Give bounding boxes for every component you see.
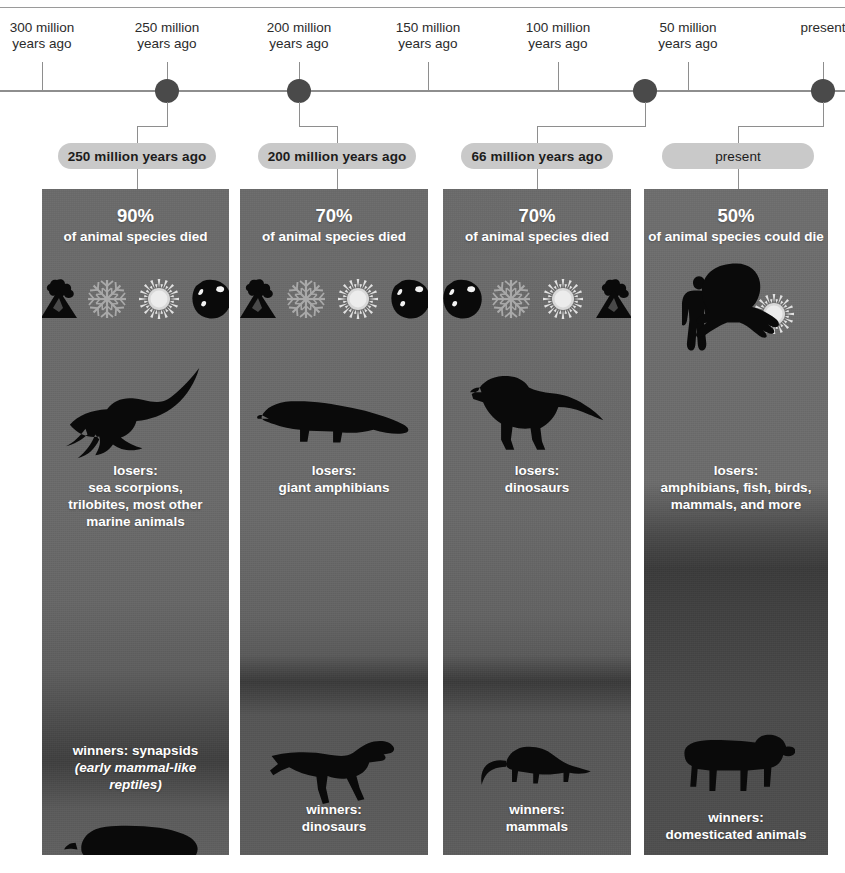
- timeline-connector-segment: [537, 169, 538, 189]
- timeline-tick-label: present: [768, 20, 845, 36]
- timeline-tick-label: 50 millionyears ago: [633, 20, 743, 52]
- panel-headline: 70%of animal species died: [240, 205, 428, 246]
- timeline-connector-segment: [645, 102, 646, 126]
- losers-label: losers:: [443, 462, 631, 479]
- asteroid-icon: [389, 278, 429, 320]
- timeline-tick-label-line: years ago: [503, 36, 613, 52]
- timeline-tick-label-line: years ago: [633, 36, 743, 52]
- timeline-connector-segment: [738, 126, 739, 143]
- panel-event-66: 70%of animal species diedlosers:dinosaur…: [443, 189, 631, 855]
- losers-caption: losers:dinosaurs: [443, 462, 631, 496]
- winners-caption: winners:mammals: [443, 801, 631, 835]
- timeline-tick-label-line: 50 million: [633, 20, 743, 36]
- panel-headline: 90%of animal species died: [42, 205, 229, 246]
- losers-label: losers:: [240, 462, 428, 479]
- timeline-tick-label-line: 250 million: [112, 20, 222, 36]
- timeline-axis: [0, 90, 845, 92]
- timeline-tick-label: 250 millionyears ago: [112, 20, 222, 52]
- losers-line: amphibians, fish, birds,: [644, 479, 828, 496]
- winners-caption: winners:domesticated animals: [644, 809, 828, 843]
- extinction-percent: 70%: [518, 205, 555, 226]
- sun-icon: [135, 275, 183, 323]
- extinction-percent-caption: of animal species could die: [644, 228, 828, 246]
- timeline-event-dot[interactable]: [633, 79, 657, 103]
- frog-silhouette: [644, 257, 828, 343]
- timeline-connector-segment: [299, 102, 300, 126]
- winners-note: mammals: [443, 818, 631, 835]
- winners-note: dinosaurs: [240, 818, 428, 835]
- losers-label: losers:: [644, 462, 828, 479]
- winners-label: winners:: [644, 809, 828, 826]
- timeline-tick-label: 100 millionyears ago: [503, 20, 613, 52]
- timeline-tick-label-line: 200 million: [244, 20, 354, 36]
- timeline-tick-mark: [558, 62, 559, 91]
- timeline-connector-segment: [823, 102, 824, 126]
- snowflake-icon: [490, 278, 532, 320]
- losers-line: trilobites, most other: [42, 496, 229, 513]
- panel-headline: 70%of animal species died: [443, 205, 631, 246]
- timeline-connector-segment: [738, 126, 824, 127]
- timeline-tick-label-line: 150 million: [373, 20, 483, 36]
- timeline-tick-mark: [428, 62, 429, 91]
- volcano-icon: [594, 278, 632, 320]
- sun-icon: [539, 275, 587, 323]
- raptor-dinosaur-silhouette: [240, 735, 428, 809]
- event-pill-event-present[interactable]: present: [662, 143, 814, 169]
- losers-label: losers:: [42, 462, 229, 479]
- extinction-percent-caption: of animal species died: [42, 228, 229, 246]
- winners-caption: winners: synapsids(early mammal-like rep…: [42, 742, 229, 793]
- top-rule: [0, 7, 845, 8]
- extinction-percent-caption: of animal species died: [443, 228, 631, 246]
- losers-line: giant amphibians: [240, 479, 428, 496]
- timeline-tick-label: 200 millionyears ago: [244, 20, 354, 52]
- timeline-event-dot[interactable]: [155, 79, 179, 103]
- snowflake-icon: [86, 278, 128, 320]
- timeline-connector-segment: [137, 169, 138, 189]
- asteroid-icon: [443, 278, 483, 320]
- cause-icon-row: [42, 275, 229, 323]
- winners-label: winners: synapsids: [42, 742, 229, 759]
- event-pill-event-200[interactable]: 200 million years ago: [258, 143, 416, 169]
- timeline-event-dot[interactable]: [287, 79, 311, 103]
- timeline-tick-mark: [42, 62, 43, 91]
- losers-line: sea scorpions,: [42, 479, 229, 496]
- panel-content: 50%of animal species could dielosers:amp…: [644, 189, 828, 855]
- timeline-tick-label-line: years ago: [244, 36, 354, 52]
- timeline-tick-label-line: years ago: [112, 36, 222, 52]
- timeline-connector-segment: [137, 126, 168, 127]
- losers-caption: losers:sea scorpions,trilobites, most ot…: [42, 462, 229, 530]
- panel-content: 70%of animal species diedlosers:giant am…: [240, 189, 428, 855]
- extinction-percent: 90%: [117, 205, 154, 226]
- timeline-connector-segment: [137, 126, 138, 143]
- tyrannosaur-silhouette: [443, 371, 631, 453]
- panel-content: 90%of animal species diedlosers:sea scor…: [42, 189, 229, 855]
- timeline-tick-label-line: 300 million: [0, 20, 97, 36]
- timeline-tick-label-line: 100 million: [503, 20, 613, 36]
- losers-line: dinosaurs: [443, 479, 631, 496]
- timeline-connector-segment: [537, 126, 538, 143]
- synapsid-silhouette: [42, 801, 229, 855]
- cow-silhouette: [644, 732, 828, 800]
- volcano-icon: [240, 278, 278, 320]
- early-mammal-silhouette: [443, 738, 631, 794]
- snowflake-icon: [285, 278, 327, 320]
- cause-icon-row: [443, 275, 631, 323]
- timeline-tick-label: 300 millionyears ago: [0, 20, 97, 52]
- losers-line: mammals, and more: [644, 496, 828, 513]
- panel-event-present: 50%of animal species could dielosers:amp…: [644, 189, 828, 855]
- panel-event-250: 90%of animal species diedlosers:sea scor…: [42, 189, 229, 855]
- volcano-icon: [42, 278, 79, 320]
- winners-label: winners:: [443, 801, 631, 818]
- event-pill-event-66[interactable]: 66 million years ago: [461, 143, 613, 169]
- timeline-tick-label: 150 millionyears ago: [373, 20, 483, 52]
- timeline-event-dot[interactable]: [811, 79, 835, 103]
- timeline-connector-segment: [299, 126, 338, 127]
- winners-note: (early mammal-like reptiles): [61, 759, 211, 793]
- timeline-tick-label-line: years ago: [373, 36, 483, 52]
- timeline-connector-segment: [337, 126, 338, 143]
- giant-amphibian-silhouette: [240, 391, 428, 452]
- timeline-connector-segment: [337, 169, 338, 189]
- event-pill-event-250[interactable]: 250 million years ago: [58, 143, 216, 169]
- panel-headline: 50%of animal species could die: [644, 205, 828, 246]
- sea-scorpion-silhouette: [42, 364, 229, 467]
